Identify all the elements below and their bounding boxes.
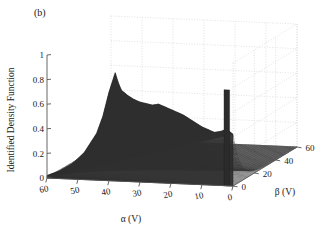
y-axis-tick-label: 1: [40, 50, 45, 60]
z-axis-title: β (V): [275, 187, 295, 198]
figure-3d-surface-plot: 00.20.40.60.8160504030201000204060 (b) I…: [0, 0, 322, 227]
z-axis-tick-label: 60: [306, 143, 316, 153]
surface-plot-svg: 00.20.40.60.8160504030201000204060 (b) I…: [0, 0, 322, 227]
y-axis-tick-label: 0.6: [33, 99, 45, 109]
y-axis-tick-label: 0.4: [33, 124, 45, 134]
y-axis-title: Identified Density Function: [6, 67, 16, 172]
z-axis-tick-label: 40: [284, 156, 294, 166]
z-axis-tick-label: 20: [263, 169, 273, 179]
z-axis-tick-label: 0: [242, 182, 247, 192]
y-axis-tick-label: 0.2: [33, 149, 44, 159]
x-axis-title: α (V): [121, 214, 142, 225]
panel-label: (b): [34, 7, 46, 19]
y-axis-tick-label: 0: [40, 173, 45, 183]
surface-isolated-spike: [224, 90, 230, 186]
y-axis-tick-label: 0.8: [33, 75, 45, 85]
